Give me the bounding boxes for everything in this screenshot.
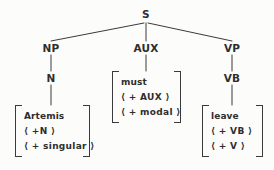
node-s: S xyxy=(142,8,150,20)
matrix-row: ⟨ + V ⟩ xyxy=(211,139,254,154)
node-vb: VB xyxy=(224,72,241,84)
edge-s-vp xyxy=(148,23,232,41)
matrix-row: ⟨ + VB ⟩ xyxy=(211,124,254,139)
node-np: NP xyxy=(43,42,60,54)
node-aux: AUX xyxy=(133,42,158,54)
left-bracket-icon xyxy=(112,71,119,123)
matrix-row: must xyxy=(121,75,172,90)
feature-matrix-np: Artemis ⟨ +N ⟩ ⟨ + singular ⟩ xyxy=(15,105,90,157)
matrix-row: leave xyxy=(211,109,254,124)
matrix-row: ⟨ + AUX ⟩ xyxy=(121,90,172,105)
matrix-row: Artemis xyxy=(24,109,81,124)
matrix-row: ⟨ +N ⟩ xyxy=(24,124,81,139)
node-vp: VP xyxy=(224,42,240,54)
right-bracket-icon xyxy=(256,105,263,157)
left-bracket-icon xyxy=(15,105,22,157)
feature-matrix-vp: leave ⟨ + VB ⟩ ⟨ + V ⟩ xyxy=(202,105,263,157)
syntax-tree-diagram: S NP AUX VP N VB Artemis ⟨ +N ⟩ ⟨ + sing… xyxy=(0,0,274,170)
left-bracket-icon xyxy=(202,105,209,157)
matrix-row: ⟨ + singular ⟩ xyxy=(24,139,81,154)
matrix-row: ⟨ + modal ⟩ xyxy=(121,105,172,120)
node-n: N xyxy=(47,72,56,84)
edge-s-np xyxy=(51,23,144,41)
feature-matrix-aux: must ⟨ + AUX ⟩ ⟨ + modal ⟩ xyxy=(112,71,181,123)
